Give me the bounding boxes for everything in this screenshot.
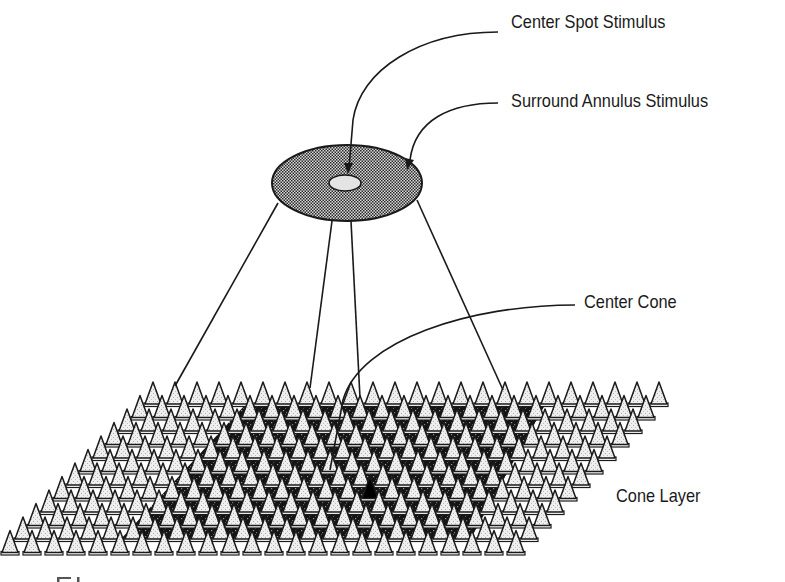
center-spot-stimulus (329, 175, 361, 191)
projection-lines (175, 200, 503, 398)
surround-annulus-label: Surround Annulus Stimulus (511, 91, 708, 110)
center-cone-label: Center Cone (584, 292, 677, 311)
projection-line-left (175, 203, 278, 386)
center-spot-label: Center Spot Stimulus (511, 12, 665, 31)
projection-line-center-left (310, 221, 332, 388)
surround-leader-line (410, 103, 498, 160)
caption-fragment (57, 577, 80, 582)
cone-layer-label: Cone Layer (616, 486, 700, 505)
figure-canvas: Center Spot Stimulus Surround Annulus St… (0, 0, 785, 582)
cone (650, 382, 668, 407)
projection-line-right (417, 200, 503, 390)
cone-layer (1, 382, 668, 555)
